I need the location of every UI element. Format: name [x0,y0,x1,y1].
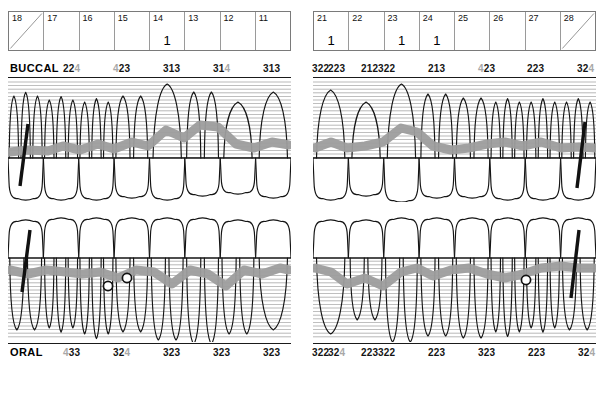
pocket-depth-digit: 2 [390,63,396,74]
pocket-depth-digit: 3 [275,63,281,74]
tooth-number-label: 13 [188,13,198,23]
pocket-depth-digit: 3 [490,63,496,74]
tooth-number-label: 21 [317,13,327,23]
tooth-cell-14[interactable]: 141 [150,12,185,50]
pocket-depth-digit: 3 [175,63,181,74]
pocket-depth-digit: 3 [75,347,81,358]
pocket-depth-triplet[interactable]: 323 [213,347,230,358]
pocket-depth-triplet[interactable]: 223 [361,347,378,358]
tooth-diagram-upper-left[interactable] [8,80,291,202]
pocket-depth-triplet[interactable]: 223 [527,63,544,74]
tooth-cell-27[interactable]: 27 [526,12,561,50]
pocket-depth-triplet[interactable]: 313 [163,63,180,74]
pocket-depth-digit: 4 [125,347,131,358]
tooth-cell-15[interactable]: 15 [115,12,150,50]
tooth-cell-12[interactable]: 12 [221,12,256,50]
pocket-depth-triplet[interactable]: 323 [163,347,180,358]
tooth-diagram-lower-left[interactable] [8,212,291,342]
pocket-depth-triplet[interactable]: 323 [263,347,280,358]
tooth-cell-17[interactable]: 17 [44,12,79,50]
pocket-depth-digit: 3 [440,347,446,358]
tooth-number-label: 11 [259,13,268,23]
pocket-depth-digit: 3 [490,347,496,358]
pocket-depth-triplet[interactable]: 324 [113,347,130,358]
tooth-number-label: 26 [493,13,503,23]
gingival-margin-band [315,128,594,150]
tooth-number-label: 24 [423,13,433,23]
pocket-depth-triplet[interactable]: 213 [428,63,445,74]
furcation-involvement-icon[interactable] [103,281,112,290]
pocket-depth-digit: 4 [589,63,595,74]
furcation-involvement-icon[interactable] [122,273,131,282]
tooth-mobility-mark: 1 [420,34,454,48]
pocket-depth-digit: 2 [390,347,396,358]
pocket-depth-digit: 3 [125,63,131,74]
tooth-outline[interactable] [348,220,383,320]
pocket-depth-digit: 4 [225,63,231,74]
tooth-number-label: 12 [224,13,234,23]
tooth-number-label: 16 [83,13,93,23]
tooth-cell-16[interactable]: 16 [80,12,115,50]
tooth-cell-11[interactable]: 11 [256,12,290,50]
pocket-depth-triplet[interactable]: 322 [312,63,329,74]
pocket-depth-triplet[interactable]: 322 [378,347,395,358]
buccal-label: BUCCAL [10,62,59,74]
missing-tooth-diagonal-icon [561,12,595,50]
pocket-depth-digit: 4 [75,63,81,74]
tooth-mobility-mark: 1 [314,34,348,48]
pocket-depth-triplet[interactable]: 423 [113,63,130,74]
tooth-number-label: 14 [153,13,163,23]
tooth-cell-25[interactable]: 25 [455,12,490,50]
tooth-number-label: 25 [458,13,468,23]
tooth-diagram-lower-right[interactable] [313,212,596,342]
tooth-mobility-mark: 1 [150,34,184,48]
tooth-cell-26[interactable]: 26 [490,12,525,50]
pocket-depth-triplet[interactable]: 212 [361,63,378,74]
tooth-diagram-upper-right[interactable] [313,80,596,202]
pocket-depth-triplet[interactable]: 324 [577,63,594,74]
pocket-depth-digit: 4 [590,347,596,358]
tooth-number-label: 17 [47,13,57,23]
oral-label: ORAL [10,346,43,358]
pocket-depth-digit: 3 [440,63,446,74]
pocket-depth-triplet[interactable]: 433 [63,347,80,358]
tooth-cell-24[interactable]: 241 [420,12,455,50]
tooth-outline[interactable] [185,92,220,196]
tooth-cell-13[interactable]: 13 [185,12,220,50]
tooth-mobility-mark: 1 [385,34,419,48]
gingival-margin-band [10,268,289,286]
periodontal-chart: 18171615141131211 2112223124125262728 BU… [0,0,604,410]
pocket-depth-triplet[interactable]: 224 [63,63,80,74]
pocket-depth-digit: 3 [225,347,231,358]
pocket-depth-triplet[interactable]: 324 [328,347,345,358]
missing-tooth-diagonal-icon [9,12,43,50]
pocket-depth-triplet[interactable]: 223 [528,347,545,358]
tooth-cell-22[interactable]: 22 [349,12,384,50]
tooth-number-grid-upper-left[interactable]: 18171615141131211 [8,11,291,51]
tooth-cell-18[interactable]: 18 [9,12,44,50]
pocket-depth-digit: 3 [175,347,181,358]
pocket-depth-triplet[interactable]: 323 [478,347,495,358]
tooth-cell-23[interactable]: 231 [385,12,420,50]
oral-pocket-depth-row: ORAL 433324323323323322223 3243222233232… [0,346,604,362]
tooth-number-label: 23 [388,13,398,23]
pocket-depth-triplet[interactable]: 423 [478,63,495,74]
pocket-depth-triplet[interactable]: 322 [312,347,329,358]
tooth-number-label: 22 [352,13,362,23]
tooth-number-label: 27 [529,13,539,23]
buccal-pocket-depth-row: BUCCAL 224423313314313322212 22332221342… [0,62,604,78]
pocket-depth-triplet[interactable]: 223 [428,347,445,358]
pocket-depth-triplet[interactable]: 324 [578,347,595,358]
tooth-number-grid-upper-right[interactable]: 2112223124125262728 [313,11,596,51]
pocket-depth-digit: 4 [340,347,346,358]
buccal-divider-left [8,77,291,78]
tooth-cell-21[interactable]: 211 [314,12,349,50]
furcation-involvement-icon[interactable] [521,275,530,284]
tooth-number-label: 15 [118,13,128,23]
pocket-depth-digit: 3 [540,347,546,358]
pocket-depth-triplet[interactable]: 322 [378,63,395,74]
pocket-depth-triplet[interactable]: 223 [328,63,345,74]
pocket-depth-triplet[interactable]: 314 [213,63,230,74]
tooth-cell-28[interactable]: 28 [561,12,595,50]
pocket-depth-triplet[interactable]: 313 [263,63,280,74]
